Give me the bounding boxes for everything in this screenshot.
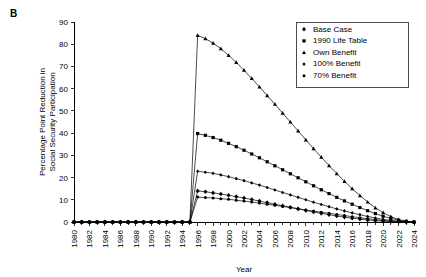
y-tick-label: 90 <box>59 18 68 27</box>
y-tick-label: 0 <box>64 218 69 227</box>
x-tick-label: 2016 <box>348 229 357 247</box>
series-0 <box>72 189 416 225</box>
legend-label: 1990 Life Table <box>313 36 368 45</box>
x-tick-label: 2012 <box>317 229 326 247</box>
x-tick-label: 1984 <box>101 229 110 247</box>
y-axis-title-line-1: Social Security Participation <box>48 72 57 171</box>
x-tick-label: 2004 <box>255 229 264 247</box>
legend-label: 100% Benefit <box>313 59 361 68</box>
x-tick-label: 2010 <box>302 229 311 247</box>
y-tick-label: 70 <box>59 62 68 71</box>
legend-label: Base Case <box>313 25 353 34</box>
y-tick-label: 80 <box>59 40 68 49</box>
x-tick-label: 2024 <box>410 229 419 247</box>
x-tick-label: 2014 <box>333 229 342 247</box>
x-tick-label: 2018 <box>364 229 373 247</box>
x-tick-label: 1990 <box>147 229 156 247</box>
series-1 <box>72 132 415 224</box>
x-tick-label: 1982 <box>85 229 94 247</box>
y-tick-label: 20 <box>59 174 68 183</box>
x-tick-label: 2000 <box>225 229 234 247</box>
x-tick-label: 1986 <box>116 229 125 247</box>
legend-item-1[interactable]: 1990 Life Table <box>302 36 367 45</box>
x-tick-label: 1994 <box>178 229 187 247</box>
y-tick-label: 50 <box>59 107 68 116</box>
x-tick-label: 2022 <box>395 229 404 247</box>
x-tick-label: 2002 <box>240 229 249 247</box>
x-tick-label: 1992 <box>163 229 172 247</box>
y-tick-label: 30 <box>59 151 68 160</box>
x-tick-label: 1988 <box>132 229 141 247</box>
x-tick-label: 2020 <box>379 229 388 247</box>
x-tick-label: 1996 <box>194 229 203 247</box>
legend-label: Own Benefit <box>313 48 357 57</box>
chart-legend: Base Case1990 Life TableOwn Benefit100% … <box>296 22 408 87</box>
x-tick-label: 1998 <box>209 229 218 247</box>
line-chart: 0102030405060708090 19801982198419861988… <box>0 0 426 277</box>
y-tick-label: 40 <box>59 129 68 138</box>
legend-label: 70% Benefit <box>313 71 357 80</box>
figure-panel-b: B 0102030405060708090 198019821984198619… <box>0 0 426 277</box>
x-tick-label: 2008 <box>286 229 295 247</box>
panel-label: B <box>10 8 17 19</box>
y-tick-label: 60 <box>59 85 68 94</box>
x-tick-label: 2006 <box>271 229 280 247</box>
x-axis: 1980198219841986198819901992199419961998… <box>70 222 419 248</box>
x-axis-title: Year <box>236 265 253 274</box>
y-axis: 0102030405060708090 <box>59 18 74 227</box>
y-axis-title-line-0: Percentage Point Reduction in <box>38 68 47 176</box>
y-tick-label: 10 <box>59 196 68 205</box>
x-tick-label: 1980 <box>70 229 79 247</box>
